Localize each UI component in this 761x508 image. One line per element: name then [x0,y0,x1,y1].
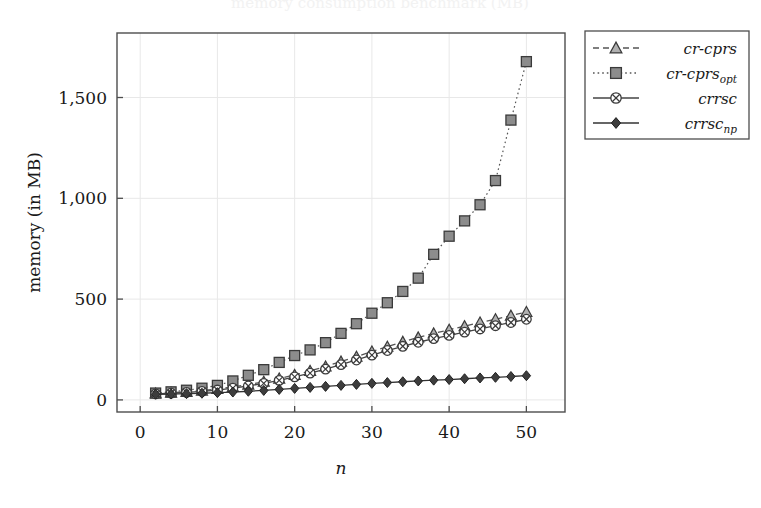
series-cr-cprs_opt [151,57,532,398]
marker-diamond [445,375,453,385]
y-tick-label: 0 [96,390,107,410]
marker-diamond [321,381,329,391]
marker-square [351,319,361,329]
marker-square [444,231,454,241]
chart-canvas: 05001,0001,50001020304050nmemory (in MB)… [0,0,761,508]
legend-label: crrsc [698,90,737,108]
marker-diamond [275,384,283,394]
y-axis-label: memory (in MB) [24,152,44,293]
marker-diamond [368,378,376,388]
marker-square [413,273,423,283]
marker-diamond [306,382,314,392]
y-tick-label: 1,000 [58,188,107,208]
x-tick-label: 30 [361,422,383,442]
marker-diamond [337,380,345,390]
x-tick-label: 20 [284,422,306,442]
marker-square [611,68,622,79]
marker-square [290,351,300,361]
marker-diamond [491,372,499,382]
marker-diamond [522,371,530,381]
marker-square [460,216,470,226]
marker-square [382,298,392,308]
legend-label: cr-cprs [683,40,737,58]
marker-square [490,176,500,186]
y-tick-label: 500 [75,289,107,309]
marker-diamond [476,373,484,383]
marker-square [367,308,377,318]
marker-square [259,365,269,375]
series-crrsc_np [151,371,530,400]
marker-square [521,57,531,67]
marker-square [274,357,284,367]
x-axis-label: n [336,458,347,478]
marker-diamond [429,375,437,385]
marker-diamond [399,377,407,387]
marker-square [243,370,253,380]
marker-diamond [460,374,468,384]
marker-diamond [414,376,422,386]
x-tick-label: 10 [207,422,229,442]
x-tick-label: 40 [438,422,460,442]
series-line [156,62,527,393]
marker-diamond [352,379,360,389]
legend: cr-cprscr-cprsoptcrrsccrrscnp [585,31,749,139]
marker-square [475,200,485,210]
marker-square [321,338,331,348]
marker-diamond [290,383,298,393]
chart-figure: memory consumption benchmark (MB) 05001,… [0,0,761,508]
y-tick-label: 1,500 [58,88,107,108]
marker-square [506,115,516,125]
x-tick-label: 50 [516,422,538,442]
marker-square [398,286,408,296]
marker-square [429,249,439,259]
marker-diamond [507,372,515,382]
marker-diamond [383,378,391,388]
marker-square [305,345,315,355]
marker-square [336,328,346,338]
x-tick-label: 0 [135,422,146,442]
